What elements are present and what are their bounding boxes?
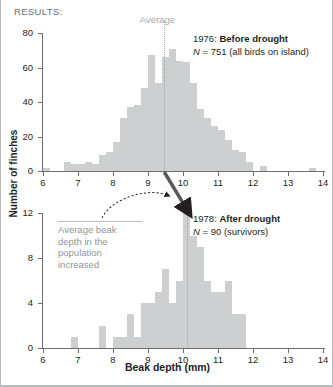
histogram-bar <box>239 314 246 348</box>
histogram-bar <box>190 83 197 171</box>
x-axis-tick-label: 9 <box>140 177 156 188</box>
histogram-bar <box>155 83 162 171</box>
histogram-bar <box>148 303 155 348</box>
x-axis-tick <box>113 172 114 176</box>
histogram-bar <box>127 107 134 171</box>
x-axis-tick-label: 14 <box>315 177 331 188</box>
histogram-bar <box>218 130 225 171</box>
annotation-line: Average beak <box>58 224 142 236</box>
legend-bottom-n-symbol: N <box>193 226 200 237</box>
histogram-bar <box>120 118 127 171</box>
y-axis-tick <box>38 68 42 69</box>
histogram-bar <box>197 247 204 348</box>
x-axis-tick <box>253 172 254 176</box>
histogram-bar <box>211 126 218 171</box>
histogram-bar <box>134 337 141 348</box>
histogram-bar <box>190 236 197 349</box>
y-axis-tick <box>38 213 42 214</box>
x-axis-tick-label: 8 <box>105 177 121 188</box>
histogram-bar <box>141 88 148 171</box>
y-axis-tick-label: 80 <box>11 27 33 38</box>
y-axis-tick-label: 0 <box>11 165 33 176</box>
histogram-bar <box>71 337 78 348</box>
legend-bottom: 1978: After drought N = 90 (survivors) <box>193 213 280 238</box>
x-axis-tick-label: 7 <box>70 177 86 188</box>
annotation-line: increased <box>58 259 142 271</box>
annotation-average-increased: Average beakdepth in thepopulationincrea… <box>58 221 142 270</box>
x-axis-tick-label: 12 <box>245 354 261 365</box>
x-axis-tick <box>78 172 79 176</box>
legend-top-n-value: = 751 (all birds on island) <box>203 46 309 57</box>
histogram-bar <box>85 162 92 171</box>
histogram-bar <box>169 49 176 171</box>
legend-top-year: 1976: <box>193 33 217 44</box>
x-axis-tick <box>288 172 289 176</box>
y-axis-tick <box>38 258 42 259</box>
histogram-bar <box>113 337 120 348</box>
y-axis-line <box>42 33 43 172</box>
histogram-bar <box>204 281 211 349</box>
x-axis-tick <box>183 172 184 176</box>
legend-bottom-n-value: = 90 (survivors) <box>203 226 269 237</box>
legend-top-condition: Before drought <box>219 33 288 44</box>
x-axis-tick <box>323 349 324 353</box>
histogram-bar <box>120 337 127 348</box>
histogram-bar <box>127 314 134 348</box>
histogram-bar <box>176 61 183 171</box>
x-axis-tick <box>148 349 149 353</box>
histogram-bar <box>211 292 218 348</box>
histogram-bar <box>197 109 204 171</box>
histogram-bar <box>225 140 232 171</box>
x-axis-tick-label: 10 <box>175 177 191 188</box>
y-axis-tick-label: 60 <box>11 62 33 73</box>
x-axis-tick-label: 11 <box>210 354 226 365</box>
histogram-bar <box>64 162 71 171</box>
average-line <box>164 21 165 171</box>
histogram-bar <box>176 281 183 349</box>
x-axis-tick <box>43 172 44 176</box>
x-axis-tick-label: 6 <box>35 177 51 188</box>
y-axis-tick-label: 0 <box>11 342 33 353</box>
histogram-bar <box>169 303 176 348</box>
x-axis-tick <box>148 172 149 176</box>
results-label: RESULTS: <box>14 6 63 17</box>
x-axis-tick-label: 6 <box>35 354 51 365</box>
histogram-bar <box>99 155 106 171</box>
histogram-bar <box>232 314 239 348</box>
histogram-bar <box>141 303 148 348</box>
histogram-bar <box>239 152 246 171</box>
x-axis-tick <box>113 349 114 353</box>
histogram-bar <box>225 281 232 349</box>
histogram-bar <box>71 164 78 171</box>
x-axis-tick-label: 11 <box>210 177 226 188</box>
histogram-bar <box>162 269 169 348</box>
y-axis-tick <box>38 348 42 349</box>
histogram-bar <box>78 164 85 171</box>
y-axis-tick <box>38 137 42 138</box>
y-axis-tick <box>38 102 42 103</box>
x-axis-tick-label: 14 <box>315 354 331 365</box>
x-axis-tick-label: 8 <box>105 354 121 365</box>
x-axis-tick-label: 12 <box>245 177 261 188</box>
histogram-bar <box>92 164 99 171</box>
y-axis-tick <box>38 303 42 304</box>
histogram-bar <box>232 150 239 171</box>
x-axis-tick <box>78 349 79 353</box>
x-axis-tick <box>43 349 44 353</box>
average-line <box>187 207 188 348</box>
y-axis-tick-label: 40 <box>11 96 33 107</box>
x-axis-tick <box>323 172 324 176</box>
histogram-bar <box>113 142 120 171</box>
annotation-line: depth in the <box>58 236 142 248</box>
annotation-line: population <box>58 247 142 259</box>
y-axis-line <box>42 213 43 349</box>
y-axis-tick <box>38 171 42 172</box>
y-axis-tick-label: 20 <box>11 131 33 142</box>
legend-bottom-year: 1978: <box>193 213 217 224</box>
x-axis-tick <box>218 349 219 353</box>
histogram-bar <box>155 292 162 348</box>
x-axis-tick-label: 10 <box>175 354 191 365</box>
histogram-bar <box>218 292 225 348</box>
histogram-bar <box>106 152 113 171</box>
x-axis-tick-label: 13 <box>280 177 296 188</box>
